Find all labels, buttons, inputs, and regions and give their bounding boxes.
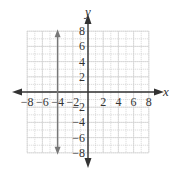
x-tick-label: 8: [146, 95, 152, 109]
x-tick-label: 2: [100, 95, 106, 109]
x-tick-label: −6: [36, 95, 49, 109]
y-tick-label: −8: [72, 146, 85, 160]
y-tick-label: −4: [72, 115, 85, 129]
y-tick-label: 4: [79, 55, 85, 69]
x-tick-label: 4: [115, 95, 121, 109]
y-axis-label: y: [83, 4, 91, 19]
y-tick-label: −6: [72, 131, 85, 145]
y-tick-label: 2: [79, 70, 85, 84]
x-tick-label: −8: [21, 95, 34, 109]
y-tick-label: 8: [79, 24, 85, 38]
y-tick-label: −2: [72, 100, 85, 114]
x-tick-label: 6: [131, 95, 137, 109]
coordinate-plane: −8−6−4−224688642−2−4−6−8 x y: [0, 0, 172, 173]
y-tick-label: 6: [79, 39, 85, 53]
x-axis-label: x: [162, 84, 169, 99]
